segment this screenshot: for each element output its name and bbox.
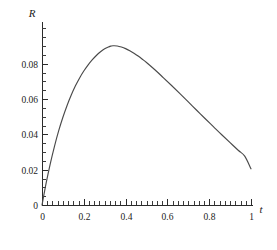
data-series-curve <box>42 46 251 205</box>
x-axis-group: 00.20.40.60.81 t <box>40 199 263 222</box>
y-tick-label: 0.02 <box>21 166 38 176</box>
chart-canvas: 00.20.40.60.81 t 00.020.040.060.08 R <box>0 0 277 250</box>
y-axis-group: 00.020.040.060.08 R <box>21 7 48 211</box>
y-tick-label: 0 <box>33 201 38 211</box>
x-tick-label: 0.4 <box>121 212 133 222</box>
x-tick-label: 0 <box>40 212 45 222</box>
x-axis-tick-labels: 00.20.40.60.81 <box>40 212 254 222</box>
y-tick-label: 0.06 <box>21 95 38 105</box>
y-tick-label: 0.08 <box>21 60 38 70</box>
x-axis-label: t <box>259 203 263 215</box>
y-tick-label: 0.04 <box>21 130 38 140</box>
x-tick-label: 0.8 <box>204 212 216 222</box>
x-tick-label: 0.2 <box>79 212 91 222</box>
x-tick-label: 0.6 <box>162 212 174 222</box>
y-axis-tick-labels: 00.020.040.060.08 <box>21 60 38 211</box>
x-axis-minor-ticks <box>43 201 252 205</box>
x-tick-label: 1 <box>249 212 254 222</box>
y-axis-label: R <box>28 7 36 19</box>
chart-figure: 00.20.40.60.81 t 00.020.040.060.08 R <box>0 0 277 250</box>
